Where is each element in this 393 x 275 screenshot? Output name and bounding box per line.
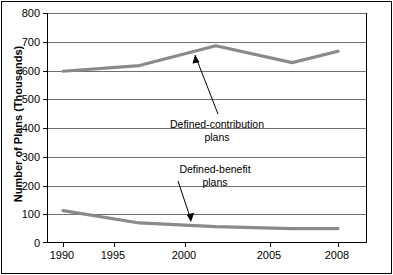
y-tick-label-800: 800 [2, 7, 40, 19]
y-tick-label-100: 100 [2, 208, 40, 220]
line-defined-benefit [63, 211, 338, 229]
x-tick-label-2000: 2000 [154, 249, 214, 261]
y-tick-label-500: 500 [2, 93, 40, 105]
x-tick-label-1995: 1995 [83, 249, 143, 261]
y-tick-label-0: 0 [2, 237, 40, 249]
annotation-defined-benefit: Defined-benefit plans [150, 163, 280, 189]
annotation-db-line1: Defined-benefit [150, 163, 280, 176]
annotation-dc-line1: Defined-contribution [152, 118, 282, 131]
annotation-db-line2: plans [150, 176, 280, 189]
y-tick-label-600: 600 [2, 65, 40, 77]
y-tick-label-200: 200 [2, 180, 40, 192]
line-defined-contribution [63, 46, 338, 71]
annotation-arrow-defined-contribution [193, 55, 219, 114]
annotation-dc-line2: plans [152, 131, 282, 144]
x-tick-label-2008: 2008 [307, 249, 367, 261]
y-tick-label-300: 300 [2, 151, 40, 163]
annotation-defined-contribution: Defined-contribution plans [152, 118, 282, 144]
x-tick-label-2005: 2005 [239, 249, 299, 261]
chart-page: Number of Plans (Thousands) 800 700 600 … [0, 0, 393, 275]
y-tick-label-400: 400 [2, 122, 40, 134]
y-tick-label-700: 700 [2, 36, 40, 48]
